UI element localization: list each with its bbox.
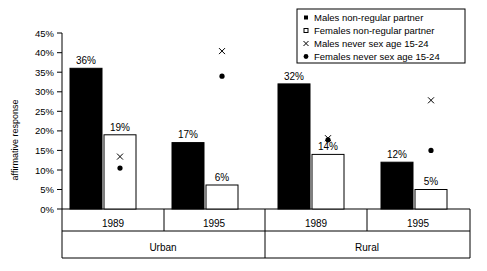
bar-label-males-rural-1995: 12% [387, 149, 407, 160]
bar-label-females-rural-1989: 14% [318, 141, 338, 152]
bar-females-nonregular-urban-1989 [104, 135, 136, 209]
x-category-label-rural-1995: 1995 [407, 218, 430, 229]
legend-label-males-neversex: Males never sex age 15-24 [314, 38, 429, 49]
bar-males-nonregular-urban-1989 [70, 68, 102, 209]
y-tick-label-35: 35% [35, 67, 55, 78]
bar-males-nonregular-rural-1995 [381, 162, 413, 209]
y-tick-label-40: 40% [35, 47, 55, 58]
marker-males-neversex-rural-1995 [428, 97, 434, 103]
bar-label-females-rural-1995: 5% [424, 176, 439, 187]
legend-marker-filled-square-icon [304, 16, 308, 20]
bar-females-nonregular-rural-1995 [415, 190, 447, 210]
legend-label-males-nonregular: Males non-regular partner [314, 12, 423, 23]
bar-females-nonregular-rural-1989 [312, 154, 344, 209]
marker-females-neversex-rural-1989 [325, 137, 330, 142]
x-group-label-urban: Urban [149, 242, 176, 253]
x-group-label-rural: Rural [355, 242, 379, 253]
y-tick-label-30: 30% [35, 86, 55, 97]
marker-females-neversex-rural-1995 [428, 148, 433, 153]
x-axis-group-separators [62, 231, 470, 258]
marker-males-neversex-urban-1995 [219, 48, 225, 54]
y-tick-label-5: 5% [40, 184, 54, 195]
bar-label-females-urban-1989: 19% [110, 122, 130, 133]
legend-marker-open-square-icon [304, 29, 308, 33]
legend-marker-filled-circle-icon [304, 54, 309, 59]
bar-males-nonregular-urban-1995 [172, 143, 204, 209]
x-category-label-rural-1989: 1989 [305, 218, 328, 229]
bar-males-nonregular-rural-1989 [278, 84, 310, 209]
x-category-label-urban-1989: 1989 [102, 218, 125, 229]
y-axis-ticks [57, 33, 62, 209]
bar-label-males-urban-1989: 36% [76, 55, 96, 66]
bar-label-males-urban-1995: 17% [178, 129, 198, 140]
marker-females-neversex-urban-1989 [117, 166, 122, 171]
x-category-label-urban-1995: 1995 [203, 218, 226, 229]
y-tick-label-15: 15% [35, 145, 55, 156]
y-tick-label-20: 20% [35, 125, 55, 136]
y-tick-label-0: 0% [40, 204, 54, 215]
bar-females-nonregular-urban-1995 [206, 185, 238, 209]
marker-females-neversex-urban-1995 [219, 74, 224, 79]
y-tick-label-10: 10% [35, 165, 55, 176]
chart-container: affirmative response 0% 5% 10% 15% 20% 2… [0, 0, 487, 271]
y-axis-title: affirmative response [10, 100, 20, 181]
bar-label-males-rural-1989: 32% [284, 71, 304, 82]
y-tick-label-25: 25% [35, 106, 55, 117]
bar-label-females-urban-1995: 6% [215, 172, 230, 183]
legend-label-females-neversex: Females never sex age 15-24 [314, 51, 440, 62]
legend-label-females-nonregular: Females non-regular partner [314, 25, 434, 36]
y-tick-label-45: 45% [35, 28, 55, 39]
